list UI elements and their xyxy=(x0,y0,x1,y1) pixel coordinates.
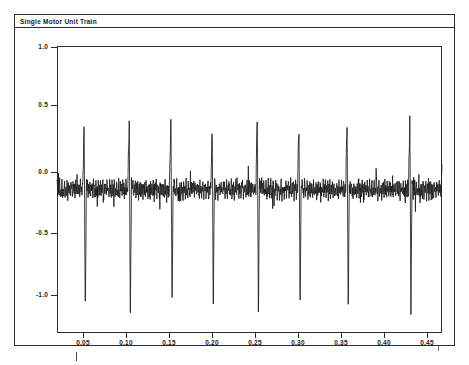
x-tick-label-1: 0.05 xyxy=(68,339,98,349)
page-title: Single Motor Unit Train xyxy=(20,15,97,27)
figure-canvas: Single Motor Unit Train 1.0 0.5 0.0 -0.5… xyxy=(0,0,469,365)
y-tick-label-text: 0.5 xyxy=(14,101,48,109)
scan-artifact-mark-right xyxy=(438,346,439,351)
x-tick-mark xyxy=(169,333,170,338)
x-tick-label-6: 0.30 xyxy=(283,339,313,349)
x-tick-mark xyxy=(212,333,213,338)
y-tick-label-text: 1.0 xyxy=(14,43,48,51)
x-tick-mark xyxy=(341,333,342,338)
y-tick-label-text: 0.0 xyxy=(14,168,48,176)
x-tick-label-text: 0.15 xyxy=(154,339,184,347)
y-tick-label-text: -0.5 xyxy=(14,229,48,237)
x-tick-label-3: 0.15 xyxy=(154,339,184,349)
x-tick-label-text: 0.10 xyxy=(111,339,141,347)
y-tick-label-3: 0.0 xyxy=(8,168,48,177)
x-tick-label-5: 0.25 xyxy=(240,339,270,349)
x-tick-label-4: 0.20 xyxy=(197,339,227,349)
y-tick-label-5: -1.0 xyxy=(8,291,48,300)
y-tick-label-2: 0.5 xyxy=(8,101,48,110)
x-tick-mark xyxy=(427,333,428,338)
signal-trace xyxy=(57,46,442,333)
x-tick-mark xyxy=(298,333,299,338)
y-tick-label-text: -1.0 xyxy=(14,291,48,299)
x-tick-label-text: 0.40 xyxy=(369,339,399,347)
y-tick-label-1: 1.0 xyxy=(8,43,48,52)
x-tick-mark xyxy=(384,333,385,338)
y-tick-label-4: -0.5 xyxy=(8,229,48,238)
x-tick-label-7: 0.35 xyxy=(326,339,356,349)
x-tick-label-text: 0.25 xyxy=(240,339,270,347)
x-tick-label-text: 0.35 xyxy=(326,339,356,347)
x-tick-mark xyxy=(83,333,84,338)
scan-artifact-mark xyxy=(76,352,77,361)
x-tick-label-text: 0.30 xyxy=(283,339,313,347)
x-tick-label-2: 0.10 xyxy=(111,339,141,349)
x-tick-mark xyxy=(126,333,127,338)
x-tick-label-text: 0.20 xyxy=(197,339,227,347)
x-tick-label-8: 0.40 xyxy=(369,339,399,349)
signal-polyline xyxy=(57,116,442,315)
x-tick-mark xyxy=(255,333,256,338)
figure-title-bar: Single Motor Unit Train xyxy=(14,14,455,28)
x-tick-label-text: 0.05 xyxy=(68,339,98,347)
